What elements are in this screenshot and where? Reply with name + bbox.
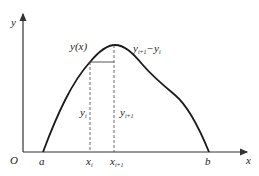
x-axis-label: x — [246, 155, 251, 166]
yi1-label: yi+1 — [120, 107, 134, 119]
difference-label: yi+1−yi — [133, 43, 161, 55]
xi1-label: xi+1 — [110, 156, 124, 168]
xi-label: xi — [86, 156, 93, 168]
origin-label: O — [10, 155, 18, 166]
yi-label: yi — [80, 107, 87, 119]
point-b-label: b — [205, 156, 211, 167]
curve-label: y(x) — [70, 41, 87, 52]
diagram-canvas — [0, 0, 259, 176]
function-curve — [43, 45, 209, 152]
point-a-label: a — [39, 156, 45, 167]
y-axis-label: y — [11, 17, 16, 28]
